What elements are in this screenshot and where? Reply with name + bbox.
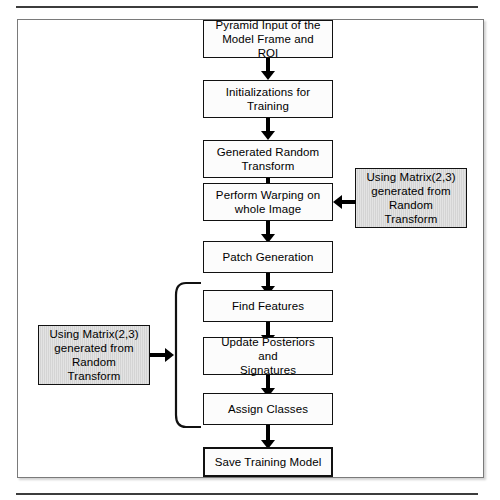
node-generated-random-transform-label: Generated RandomTransform bbox=[207, 145, 330, 173]
node-save-training-model: Save Training Model bbox=[203, 447, 333, 477]
node-assign-classes-label: Assign Classes bbox=[223, 402, 313, 416]
node-pyramid-input: Pyramid Input of theModel Frame and ROI bbox=[203, 20, 333, 58]
node-perform-warping: Perform Warping onwhole Image bbox=[203, 183, 333, 221]
arrow-note-right-head bbox=[333, 195, 342, 209]
node-save-training-model-label: Save Training Model bbox=[210, 455, 327, 469]
note-using-matrix-left-label: Using Matrix(2,3)generated fromRandomTra… bbox=[39, 327, 148, 383]
arrow-note-right-line bbox=[342, 200, 356, 204]
iteration-bracket bbox=[170, 280, 206, 430]
node-generated-random-transform: Generated RandomTransform bbox=[203, 140, 333, 178]
arrow-pyramid-to-init-head bbox=[261, 71, 275, 80]
node-pyramid-input-label: Pyramid Input of theModel Frame and ROI bbox=[204, 18, 332, 60]
node-update-posteriors-label: Update Posteriors andSignatures bbox=[204, 335, 332, 377]
diagram-page: Pyramid Input of theModel Frame and ROI … bbox=[0, 0, 500, 500]
node-find-features-label: Find Features bbox=[227, 299, 309, 313]
page-rule-bottom bbox=[16, 493, 478, 495]
node-perform-warping-label: Perform Warping onwhole Image bbox=[206, 188, 330, 216]
node-find-features: Find Features bbox=[203, 290, 333, 322]
node-patch-generation: Patch Generation bbox=[203, 241, 333, 273]
node-initializations-label: Initializations forTraining bbox=[216, 85, 320, 113]
arrow-init-to-generated-head bbox=[261, 131, 275, 140]
arrow-note-left-head bbox=[165, 348, 174, 362]
arrow-note-left-line bbox=[150, 353, 166, 357]
note-using-matrix-left: Using Matrix(2,3)generated fromRandomTra… bbox=[38, 325, 150, 385]
note-using-matrix-right: Using Matrix(2,3)generated fromRandomTra… bbox=[355, 168, 467, 228]
node-patch-generation-label: Patch Generation bbox=[217, 250, 318, 264]
node-update-posteriors: Update Posteriors andSignatures bbox=[203, 337, 333, 375]
page-rule-top bbox=[16, 6, 478, 8]
node-assign-classes: Assign Classes bbox=[203, 393, 333, 425]
node-initializations: Initializations forTraining bbox=[203, 80, 333, 118]
note-using-matrix-right-label: Using Matrix(2,3)generated fromRandomTra… bbox=[356, 170, 465, 226]
